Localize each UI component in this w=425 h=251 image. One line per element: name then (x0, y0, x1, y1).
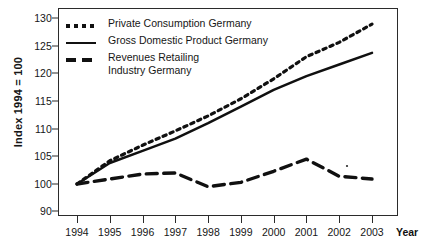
y-tick-label: 130 (26, 12, 52, 24)
y-tick-mark (52, 101, 58, 102)
y-tick-mark (52, 128, 58, 129)
y-tick-label: 115 (26, 95, 52, 107)
x-tick-label: 2003 (352, 226, 392, 238)
dotted-line-icon (66, 24, 96, 28)
y-axis-title: Index 1994 = 100 (12, 32, 24, 172)
legend: Private Consumption Germany Gross Domest… (66, 18, 316, 82)
y-tick-label: 105 (26, 150, 52, 162)
y-tick-mark (52, 156, 58, 157)
x-tick-mark (274, 216, 275, 223)
legend-label: Gross Domestic Product Germany (108, 34, 268, 47)
solid-line-icon (66, 42, 96, 44)
x-tick-mark (306, 216, 307, 223)
x-tick-mark (175, 216, 176, 223)
y-axis-labels: 13012512011511010510090 (0, 0, 52, 251)
y-tick-label: 110 (26, 123, 52, 135)
legend-item-revenues-retailing: Revenues Retailing Industry Germany (66, 52, 316, 80)
x-axis-title: Year (396, 226, 418, 238)
x-tick-mark (372, 216, 373, 223)
dashed-line-icon (66, 58, 96, 62)
legend-item-gross-domestic-product: Gross Domestic Product Germany (66, 35, 316, 50)
y-tick-label: 120 (26, 67, 52, 79)
y-tick-label: 100 (26, 178, 52, 190)
x-tick-mark (143, 216, 144, 223)
y-tick-label: 125 (26, 40, 52, 52)
x-tick-mark (208, 216, 209, 223)
legend-label: Private Consumption Germany (108, 17, 252, 30)
line-chart: 13012512011511010510090 Index 1994 = 100… (0, 0, 425, 251)
x-tick-mark (241, 216, 242, 223)
y-tick-label: 90 (26, 205, 52, 217)
y-tick-mark (52, 18, 58, 19)
x-tick-mark (77, 216, 78, 223)
legend-label: Revenues Retailing Industry Germany (108, 51, 199, 77)
y-tick-mark (52, 184, 58, 185)
x-tick-mark (110, 216, 111, 223)
legend-item-private-consumption: Private Consumption Germany (66, 18, 316, 33)
y-tick-mark (52, 73, 58, 74)
y-tick-mark (52, 45, 58, 46)
y-tick-mark (52, 211, 58, 212)
x-tick-mark (339, 216, 340, 223)
